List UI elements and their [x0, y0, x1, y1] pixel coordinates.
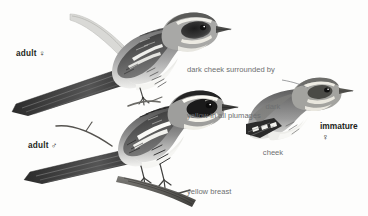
plate-artwork [0, 0, 368, 216]
bird-illustration-plate: adult ♀ adult ♂ dark cheek surrounded by… [0, 0, 368, 216]
breast-annotation: yellow breast with streaked sides and fl… [187, 150, 241, 216]
dark-cheek-annotation: dark cheek [258, 65, 288, 196]
breast-annotation-line-1: yellow breast [187, 188, 241, 197]
dark-cheek-annotation-line-1: dark [258, 103, 288, 112]
adult-male-label: adult ♂ [28, 141, 57, 151]
immature-label: immature [320, 122, 358, 132]
dark-cheek-annotation-line-2: cheek [258, 149, 288, 158]
adult-female-label: adult ♀ [16, 49, 45, 59]
immature-female-symbol: ♀ [322, 132, 329, 142]
